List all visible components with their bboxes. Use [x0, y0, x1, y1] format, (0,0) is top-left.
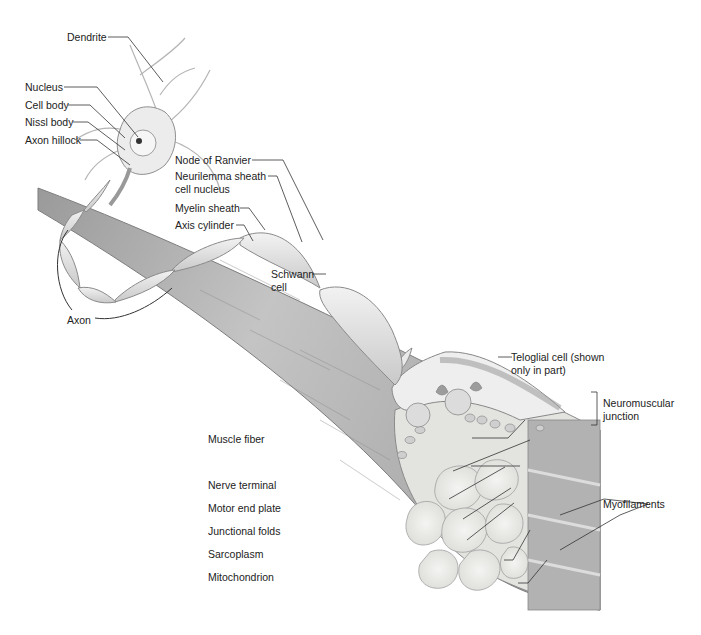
neuromuscular-diagram: Dendrite Nucleus Cell body Nissl body Ax… [0, 0, 701, 635]
label-teloglial-line2: only in part) [511, 364, 566, 377]
diagram-artwork [0, 0, 701, 635]
label-axon-hillock: Axon hillock [25, 134, 81, 147]
label-nissl-body: Nissl body [25, 116, 73, 129]
nucleolus [136, 138, 142, 144]
label-dendrite: Dendrite [67, 31, 107, 44]
label-node-of-ranvier: Node of Ranvier [175, 154, 251, 167]
label-neurilemma-sheath-line1: Neurilemma sheath [175, 170, 266, 183]
label-nucleus: Nucleus [25, 81, 63, 94]
label-neuromuscular-line2: junction [603, 410, 639, 423]
label-mitochondrion: Mitochondrion [208, 571, 274, 584]
label-schwann-cell-line1: Schwann [271, 268, 314, 281]
label-teloglial-line1: Teloglial cell (shown [511, 351, 604, 364]
label-sarcoplasm: Sarcoplasm [208, 548, 263, 561]
label-neurilemma-sheath-line2: cell nucleus [175, 183, 230, 196]
label-neuromuscular-line1: Neuromuscular [603, 397, 674, 410]
label-axis-cylinder: Axis cylinder [175, 219, 234, 232]
label-motor-end-plate: Motor end plate [208, 502, 281, 515]
label-axon: Axon [67, 314, 91, 327]
label-muscle-fiber: Muscle fiber [208, 433, 265, 446]
label-junctional-folds: Junctional folds [208, 525, 280, 538]
label-myofilaments: Myofilaments [603, 498, 665, 511]
nucleus-shape [130, 130, 156, 156]
label-schwann-cell-line2: cell [271, 281, 287, 294]
label-cell-body: Cell body [25, 99, 69, 112]
muscle-cross-section [394, 393, 600, 610]
label-nerve-terminal: Nerve terminal [208, 479, 276, 492]
label-myelin-sheath: Myelin sheath [175, 202, 240, 215]
